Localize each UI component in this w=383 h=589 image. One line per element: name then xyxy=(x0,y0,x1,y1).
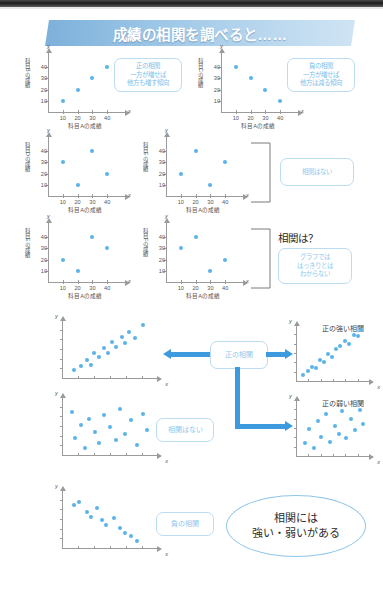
y-tick-label: 40 xyxy=(214,64,220,70)
data-point xyxy=(223,258,227,262)
y-tick-label: 10 xyxy=(159,182,165,188)
y-tick-label: 20 xyxy=(41,87,47,93)
x-tick xyxy=(142,546,143,549)
conclusion-text: 相関には 強い・弱いがある xyxy=(252,511,340,541)
arrowhead-right-weak-icon xyxy=(285,421,293,431)
data-point xyxy=(337,432,341,436)
y-tick xyxy=(60,349,63,350)
x-tick xyxy=(78,194,79,198)
data-point xyxy=(118,407,122,411)
chart-none-d: 科目Dの成績yx1010202030304040科目Aの成績 xyxy=(22,136,137,216)
x-tick xyxy=(63,194,64,198)
data-point xyxy=(77,500,81,504)
x-tick-label: 30 xyxy=(89,199,95,205)
y-axis-symbol: y xyxy=(165,213,168,219)
x-tick xyxy=(181,194,182,198)
callout-positive-correlation: 正の相関 一方が増せば 他方も増す傾向 xyxy=(114,58,182,92)
unclear-text: グラフでは はっきりとは わからない xyxy=(297,253,333,279)
x-tick-label: 40 xyxy=(104,285,110,291)
y-tick xyxy=(294,409,297,410)
bigchart-no-correlation-cloud: yx xyxy=(62,397,162,467)
y-axis-symbol: y xyxy=(55,313,58,319)
x-axis-symbol: x xyxy=(128,192,131,198)
no-correlation-label: 相関はない xyxy=(302,168,332,177)
data-point xyxy=(104,523,108,527)
x-tick xyxy=(126,546,127,549)
y-tick xyxy=(294,419,297,420)
data-point xyxy=(93,430,97,434)
data-point xyxy=(356,334,360,338)
data-point xyxy=(129,418,133,422)
data-point xyxy=(97,355,101,359)
data-point xyxy=(334,347,338,351)
x-axis-symbol: x xyxy=(377,384,380,390)
data-point xyxy=(61,99,65,103)
arrowhead-right-strong-icon xyxy=(285,349,293,359)
y-tick-label: 10 xyxy=(214,98,220,104)
arrowhead-left-icon xyxy=(163,349,171,359)
data-point xyxy=(179,246,183,250)
callout-no-correlation-row2: 相関はない xyxy=(280,158,354,186)
x-tick xyxy=(107,280,108,284)
y-tick xyxy=(60,330,63,331)
y-axis-symbol: y xyxy=(55,390,58,396)
x-tick-label: 20 xyxy=(74,199,80,205)
x-tick xyxy=(126,453,127,456)
data-point xyxy=(278,99,282,103)
y-tick-label: 30 xyxy=(41,159,47,165)
x-tick xyxy=(321,454,322,457)
data-point xyxy=(92,351,96,355)
x-tick xyxy=(196,280,197,284)
data-point xyxy=(135,539,139,543)
y-tick xyxy=(294,353,297,354)
y-tick xyxy=(60,368,63,369)
data-point xyxy=(194,149,198,153)
x-axis-caption: 科目Aの成績 xyxy=(186,292,220,300)
data-point xyxy=(118,526,122,530)
x-tick xyxy=(280,110,281,114)
bigchart-weak-positive: yx正の弱い相関 xyxy=(296,400,374,466)
y-axis-caption: 科目Cの成績 xyxy=(195,58,204,87)
data-point xyxy=(120,335,124,339)
data-point xyxy=(301,373,305,377)
y-tick xyxy=(60,519,63,520)
y-tick xyxy=(60,509,63,510)
x-tick xyxy=(94,376,95,379)
chart-title: 正の弱い相関 xyxy=(322,398,364,408)
x-tick-label: 40 xyxy=(222,199,228,205)
data-point xyxy=(89,515,93,519)
data-point xyxy=(307,427,311,431)
x-tick xyxy=(94,546,95,549)
data-point xyxy=(129,534,133,538)
data-point xyxy=(72,368,76,372)
y-axis xyxy=(221,52,222,112)
y-tick xyxy=(60,436,63,437)
x-axis xyxy=(166,196,244,197)
x-tick xyxy=(107,194,108,198)
x-tick xyxy=(265,110,266,114)
data-point xyxy=(343,339,347,343)
x-axis-symbol: x xyxy=(165,381,168,387)
data-point xyxy=(73,436,77,440)
x-tick xyxy=(308,454,309,457)
data-point xyxy=(194,235,198,239)
positive-correlation-label: 正の相関 xyxy=(225,351,253,360)
data-point xyxy=(106,351,110,355)
data-point xyxy=(306,369,310,373)
x-axis-symbol: x xyxy=(165,551,168,557)
data-point xyxy=(76,183,80,187)
x-axis-caption: 科目Aの成績 xyxy=(68,292,102,300)
data-point xyxy=(223,160,227,164)
data-point xyxy=(102,346,106,350)
data-point xyxy=(112,516,116,520)
callout-negative-correlation: 負の相関 一方が増せば 他方は減る傾向 xyxy=(287,58,355,92)
data-point xyxy=(76,88,80,92)
x-tick-label: 20 xyxy=(247,115,253,121)
callout-negative-correlation-big: 負の相関 xyxy=(156,512,214,536)
page-scan-line xyxy=(0,7,383,9)
data-point xyxy=(79,364,83,368)
y-tick-label: 30 xyxy=(159,159,165,165)
y-tick-label: 20 xyxy=(41,257,47,263)
data-point xyxy=(127,330,131,334)
data-point xyxy=(61,258,65,262)
